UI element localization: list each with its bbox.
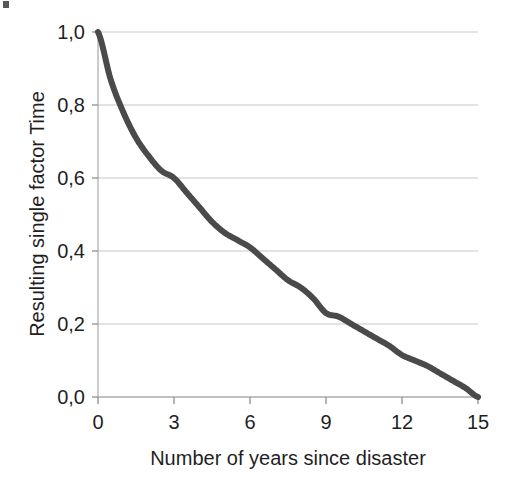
x-axis-title: Number of years since disaster <box>150 447 426 469</box>
y-axis-tick-labels: 0,00,20,40,60,81,0 <box>57 21 85 408</box>
y-axis-tick-label: 0,4 <box>57 240 85 262</box>
chart-figure: 0,00,20,40,60,81,0 03691215 Resulting si… <box>0 0 515 485</box>
x-axis-ticks <box>98 397 478 404</box>
x-axis-tick-label: 3 <box>168 411 179 433</box>
x-axis-tick-label: 15 <box>467 411 489 433</box>
y-axis-tick-label: 0,6 <box>57 167 85 189</box>
gridlines-horizontal <box>98 32 478 397</box>
x-axis-tick-label: 12 <box>391 411 413 433</box>
line-chart: 0,00,20,40,60,81,0 03691215 Resulting si… <box>0 0 515 485</box>
x-axis-tick-label: 0 <box>92 411 103 433</box>
y-axis-ticks <box>92 32 98 397</box>
data-series-line <box>98 32 478 397</box>
y-axis-tick-label: 0,0 <box>57 386 85 408</box>
y-axis-tick-label: 0,2 <box>57 313 85 335</box>
y-axis-tick-label: 1,0 <box>57 21 85 43</box>
x-axis-tick-label: 6 <box>244 411 255 433</box>
y-axis-tick-label: 0,8 <box>57 94 85 116</box>
y-axis-title: Resulting single factor Time <box>26 91 48 337</box>
x-axis-tick-label: 9 <box>320 411 331 433</box>
x-axis-tick-labels: 03691215 <box>92 411 489 433</box>
